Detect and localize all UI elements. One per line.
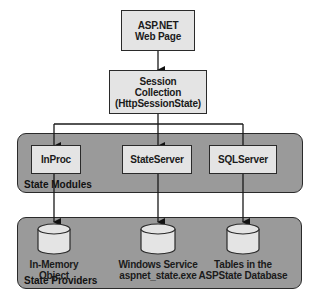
database-cylinders	[0, 0, 318, 303]
in-memory-line1: In-Memory	[14, 259, 94, 270]
in-memory-line2: Object	[14, 270, 94, 281]
aspstate-line2: ASPState Database	[193, 270, 293, 281]
diagram: State Modules State Providers	[0, 0, 318, 303]
in-memory-provider-label: In-Memory Object	[14, 259, 94, 281]
sql-database-cylinder-icon	[227, 224, 259, 254]
windows-service-cylinder-icon	[141, 224, 175, 254]
aspstate-database-provider-label: Tables in the ASPState Database	[193, 259, 293, 281]
in-memory-cylinder-icon	[38, 224, 70, 254]
aspstate-line1: Tables in the	[193, 259, 293, 270]
